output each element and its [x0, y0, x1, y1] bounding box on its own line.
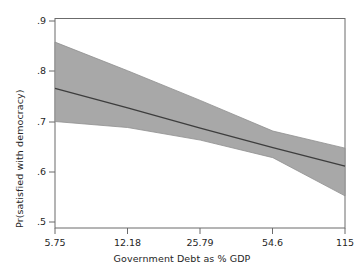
- y-tick-label-3: .6: [22, 166, 46, 177]
- y-axis-title: Pr(satisfied with democracy): [14, 89, 25, 228]
- x-axis-ticks: [55, 228, 345, 234]
- chart-canvas: [0, 0, 364, 275]
- x-tick-label-2: 25.79: [170, 237, 230, 248]
- y-axis-ticks: [49, 21, 55, 222]
- x-axis-title: Government Debt as % GDP: [0, 253, 364, 264]
- y-tick-label-2: .7: [22, 116, 46, 127]
- y-tick-label-4: .5: [22, 216, 46, 227]
- chart-container: .9 .8 .7 .6 .5 5.75 12.18 25.79 54.6 115…: [0, 0, 364, 275]
- x-tick-label-1: 12.18: [98, 237, 158, 248]
- x-tick-label-3: 54.6: [243, 237, 303, 248]
- y-tick-label-0: .9: [22, 15, 46, 26]
- y-tick-label-1: .8: [22, 65, 46, 76]
- x-tick-label-4: 115: [315, 237, 364, 248]
- x-tick-label-0: 5.75: [25, 237, 85, 248]
